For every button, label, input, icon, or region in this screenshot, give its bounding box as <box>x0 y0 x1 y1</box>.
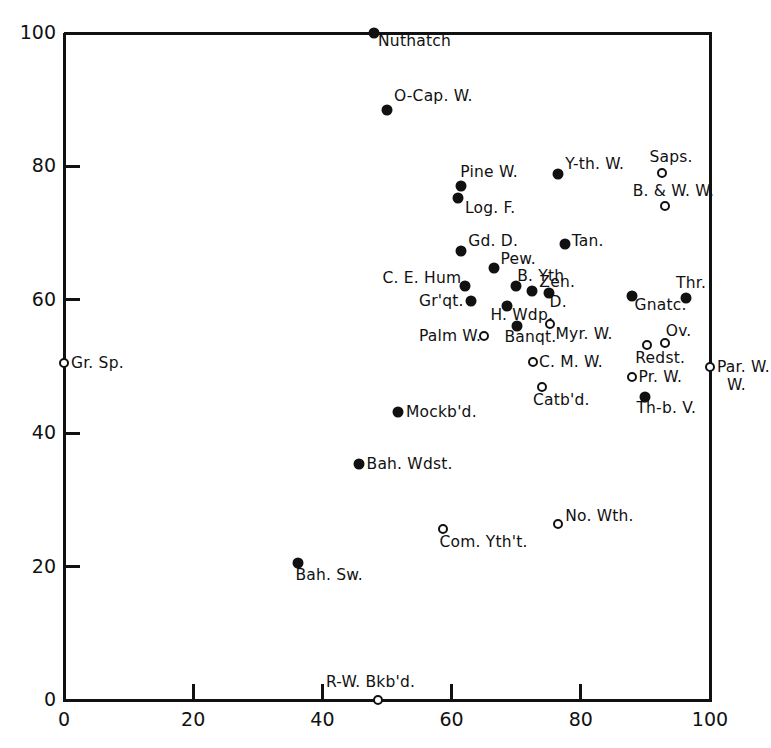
data-point-label: Mockb'd. <box>406 405 477 421</box>
par-w-label-second-line: W. <box>727 378 746 394</box>
y-tick <box>64 165 80 168</box>
y-tick-label: 60 <box>32 290 56 309</box>
data-point-label: C. E. Hum. <box>383 271 467 287</box>
data-point-marker[interactable] <box>545 319 555 329</box>
data-point-marker[interactable] <box>465 296 476 307</box>
data-point-marker[interactable] <box>392 406 403 417</box>
data-point-label: Log. F. <box>465 201 515 217</box>
data-point-label: Palm W. <box>419 329 481 345</box>
data-point-marker[interactable] <box>559 239 570 250</box>
data-point-label: Gd. D. <box>468 234 518 250</box>
x-tick-label: 100 <box>692 710 728 729</box>
data-point-label: Pew. <box>501 252 536 268</box>
data-point-label: Catb'd. <box>533 393 590 409</box>
data-point-marker[interactable] <box>657 168 667 178</box>
data-point-label: Thr. <box>676 276 706 292</box>
x-tick <box>450 684 453 700</box>
y-tick-label: 80 <box>32 156 56 175</box>
data-point-label: O-Cap. W. <box>394 89 473 105</box>
data-point-label: Ov. <box>666 324 692 340</box>
data-point-marker[interactable] <box>537 382 547 392</box>
x-tick-label: 60 <box>440 710 464 729</box>
data-point-marker[interactable] <box>456 181 467 192</box>
data-point-label: Myr. W. <box>555 327 612 343</box>
scatter-plot-figure: 020406080100020406080100NuthatchO-Cap. W… <box>0 0 771 748</box>
x-tick-label: 20 <box>181 710 205 729</box>
y-tick <box>64 298 80 301</box>
y-tick-label: 100 <box>20 23 56 42</box>
data-point-label: Com. Yth't. <box>440 535 528 551</box>
x-tick-label: 0 <box>58 710 70 729</box>
data-point-marker[interactable] <box>627 372 637 382</box>
data-point-label: Pine W. <box>460 165 517 181</box>
data-point-marker[interactable] <box>453 192 464 203</box>
y-tick-label: 0 <box>44 690 56 709</box>
data-point-label: Saps. <box>650 150 693 166</box>
x-axis-line <box>64 699 712 702</box>
data-point-label: Pr. W. <box>638 370 682 386</box>
data-point-label: Bah. Sw. <box>295 568 362 584</box>
data-point-marker[interactable] <box>488 262 499 273</box>
data-point-label: H. Wdp. <box>491 308 554 324</box>
data-point-label: Par. W. <box>717 360 770 376</box>
data-point-label: Gnatc. <box>634 298 686 314</box>
data-point-marker[interactable] <box>528 357 538 367</box>
data-point-label: B. & W. W. <box>633 184 714 200</box>
data-point-marker[interactable] <box>553 519 563 529</box>
data-point-label: C. M. W. <box>539 355 603 371</box>
data-point-marker[interactable] <box>373 695 383 705</box>
data-point-label: Th-b. V. <box>636 401 696 417</box>
data-point-label: No. Wth. <box>565 509 633 525</box>
x-tick-label: 80 <box>569 710 593 729</box>
data-point-label: R-W. Bkb'd. <box>326 675 415 691</box>
data-point-marker[interactable] <box>553 169 564 180</box>
data-point-label: Y-th. W. <box>565 157 624 173</box>
y-tick <box>64 565 80 568</box>
data-point-label: Bah. Wdst. <box>367 457 453 473</box>
data-point-marker[interactable] <box>456 246 467 257</box>
data-point-label: Gr'qt. <box>419 294 464 310</box>
data-point-marker[interactable] <box>353 458 364 469</box>
x-tick-label: 40 <box>310 710 334 729</box>
x-tick <box>321 684 324 700</box>
plot-area: 020406080100020406080100NuthatchO-Cap. W… <box>0 0 771 748</box>
x-tick <box>579 684 582 700</box>
y-tick-label: 20 <box>32 557 56 576</box>
data-point-marker[interactable] <box>527 286 538 297</box>
data-point-marker[interactable] <box>705 362 715 372</box>
data-point-label: Banqt. <box>504 330 556 346</box>
data-point-marker[interactable] <box>660 201 670 211</box>
data-point-marker[interactable] <box>59 358 69 368</box>
data-point-label: Tan. <box>572 234 604 250</box>
y-tick <box>64 432 80 435</box>
x-tick <box>192 684 195 700</box>
y-tick-label: 40 <box>32 423 56 442</box>
data-point-label: Redst. <box>635 351 685 367</box>
data-point-label: Gr. Sp. <box>71 356 124 372</box>
data-point-label: Nuthatch <box>378 34 451 50</box>
data-point-marker[interactable] <box>382 104 393 115</box>
